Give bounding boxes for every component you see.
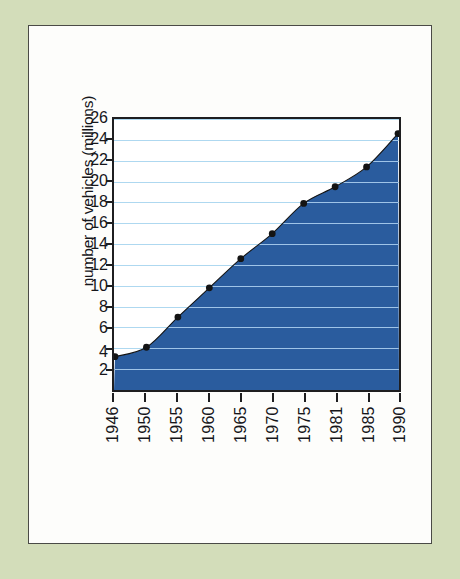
x-tick-label: 1970: [264, 406, 284, 468]
x-tick-label: 1985: [360, 406, 380, 468]
data-point-marker: [206, 284, 213, 291]
y-tick-label: 12: [74, 257, 108, 273]
y-tick-label: 22: [74, 152, 108, 168]
y-tick-label: 26: [74, 110, 108, 126]
data-point-marker: [269, 230, 276, 237]
x-tick-mark: [240, 393, 242, 402]
x-tick-label: 1950: [136, 406, 156, 468]
plot-inner: [114, 119, 399, 390]
x-tick-label: 1965: [232, 406, 252, 468]
screenshot-root: number of vehicles (millions) 26 24 22 2…: [0, 0, 460, 579]
y-tick-label: 20: [74, 173, 108, 189]
x-tick-label: 1955: [168, 406, 188, 468]
y-tick-label: 10: [74, 278, 108, 294]
x-tick-label: 1981: [328, 406, 348, 468]
data-point-marker: [332, 183, 339, 190]
x-tick-mark: [336, 393, 338, 402]
y-tick-label: 2: [74, 362, 108, 378]
y-tick-label: 16: [74, 215, 108, 231]
x-tick-mark: [368, 393, 370, 402]
data-point-marker: [300, 200, 307, 207]
x-tick-mark: [176, 393, 178, 402]
y-tick-label: 6: [74, 320, 108, 336]
x-tick-mark: [272, 393, 274, 402]
y-tick-label: 24: [74, 131, 108, 147]
x-tick-mark: [208, 393, 210, 402]
data-point-marker: [174, 314, 181, 321]
series-fill: [114, 134, 399, 390]
data-point-marker: [237, 255, 244, 262]
data-point-marker: [363, 164, 370, 171]
x-tick-mark: [304, 393, 306, 402]
x-tick-mark: [144, 393, 146, 402]
x-tick-label: 1990: [391, 406, 411, 468]
plot-area: [112, 117, 401, 392]
series-area: [114, 119, 399, 390]
y-axis-tick-labels: 26 24 22 20 18 16 14 12 10 8 6 4 2: [72, 0, 108, 579]
y-tick-label: 14: [74, 236, 108, 252]
x-tick-label: 1960: [200, 406, 220, 468]
x-tick-mark: [112, 393, 114, 402]
y-tick-label: 8: [74, 299, 108, 315]
data-point-marker: [143, 344, 150, 351]
y-tick-label: 4: [74, 344, 108, 360]
x-tick-label: 1975: [296, 406, 316, 468]
chart-figure: number of vehicles (millions) 26 24 22 2…: [0, 0, 460, 579]
x-tick-mark: [399, 393, 401, 402]
x-tick-label: 1946: [104, 406, 124, 468]
y-tick-label: 18: [74, 194, 108, 210]
